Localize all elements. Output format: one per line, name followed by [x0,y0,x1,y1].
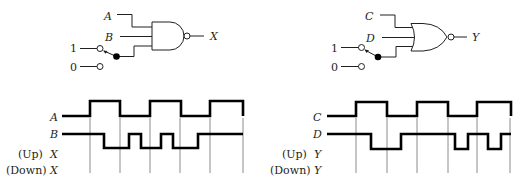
switch-1-terminal[interactable] [97,46,103,52]
output-y-label: Y [472,31,481,44]
output-x-label: X [209,30,219,43]
waveform-a [62,101,243,116]
left-timing-diagram: A B (Up) X (Down) X [6,101,243,177]
left-circuit: A B X 1 0 [70,10,219,74]
switch-0-label: 0 [70,61,77,74]
signal-label-d: D [312,128,322,141]
input-c-label: C [365,10,374,23]
switch-pivot [113,53,120,60]
waveform-c [327,102,511,116]
enable-input-wire [378,47,414,58]
signal-prefix-down: (Down) [270,164,311,177]
signal-label-y-up: Y [314,148,323,161]
input-a-wire [117,15,152,28]
nand-gate [152,22,184,50]
grid-lines [90,118,243,173]
enable-input-wire [117,46,152,57]
switch-pivot [375,54,382,61]
nor-gate [411,24,447,52]
signal-prefix-down: (Down) [6,164,47,177]
logic-figure: A B X 1 0 C D Y 1 [0,0,521,192]
signal-prefix-up: (Up) [18,148,43,161]
signal-label-c: C [313,111,322,124]
signal-label-x-up: X [49,148,59,161]
waveform-b [62,134,243,148]
signal-label-a: A [49,111,58,124]
switch-0-terminal[interactable] [359,64,365,70]
signal-label-x-down: X [49,164,59,177]
switch-1-label: 1 [70,42,77,55]
input-b-label: B [104,31,113,44]
input-c-wire [380,15,414,28]
inversion-bubble [448,34,454,40]
input-a-label: A [103,10,112,23]
input-d-label: D [365,32,375,45]
signal-label-y-down: Y [314,164,323,177]
switch-1-label: 1 [331,42,338,55]
waveform-d [327,134,511,149]
right-timing-diagram: C D (Up) Y (Down) Y [270,102,511,177]
right-circuit: C D Y 1 0 [331,10,481,74]
switch-0-terminal[interactable] [97,64,103,70]
switch-1-terminal[interactable] [359,45,365,51]
signal-prefix-up: (Up) [282,148,307,161]
signal-label-b: B [49,128,58,141]
switch-0-label: 0 [331,61,338,74]
inversion-bubble [184,33,190,39]
